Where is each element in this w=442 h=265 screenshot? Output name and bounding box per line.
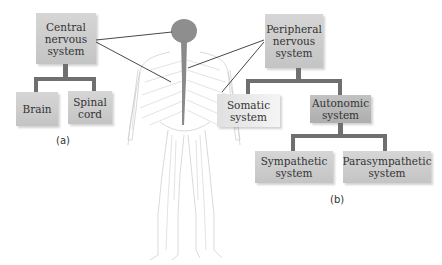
caption-a: (a) <box>56 135 70 146</box>
autonomic-system-box: Autonomic system <box>310 95 371 123</box>
connector <box>63 64 68 78</box>
connector <box>34 77 96 81</box>
label-line: nervous <box>273 35 315 47</box>
label-line: system <box>368 167 405 179</box>
connector <box>338 79 342 95</box>
parasympathetic-system-box: Parasympathetic system <box>343 151 431 183</box>
connector <box>34 77 38 93</box>
connector <box>246 79 250 94</box>
connector <box>383 134 387 151</box>
label-line: Parasympathetic <box>342 155 431 167</box>
label-line: system <box>275 47 312 59</box>
spinal-cord-box: Spinal cord <box>68 91 112 124</box>
connector <box>92 77 96 92</box>
spinal-cord-icon <box>181 40 187 125</box>
label-line: Somatic <box>227 99 270 111</box>
label-line: system <box>230 111 267 123</box>
label-line: Brain <box>22 103 51 115</box>
label-line: nervous <box>45 33 87 45</box>
label-line: Autonomic <box>312 97 369 109</box>
label-line: Sympathetic <box>261 155 328 167</box>
somatic-system-box: Somatic system <box>217 94 280 127</box>
label-line: Spinal <box>73 96 107 108</box>
label-line: system <box>275 167 312 179</box>
connector <box>291 134 295 151</box>
label-line: system <box>47 45 84 57</box>
connector <box>246 79 342 83</box>
label-line: cord <box>78 108 102 120</box>
caption-b: (b) <box>330 194 344 205</box>
peripheral-nervous-system-box: Peripheral nervous system <box>265 14 323 68</box>
brain-box: Brain <box>16 92 58 126</box>
label-line: Central <box>46 21 86 33</box>
label-line: system <box>322 109 359 121</box>
label-line: Peripheral <box>266 23 322 35</box>
connector <box>291 134 387 138</box>
sympathetic-system-box: Sympathetic system <box>255 151 333 183</box>
central-nervous-system-box: Central nervous system <box>36 13 96 64</box>
brain-icon <box>171 19 197 43</box>
